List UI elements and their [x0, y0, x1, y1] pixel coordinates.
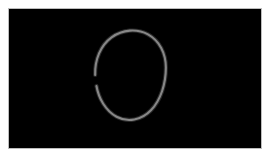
canvas-frame — [8, 8, 262, 149]
app-root — [0, 0, 272, 160]
drawing-surface[interactable] — [9, 9, 261, 148]
